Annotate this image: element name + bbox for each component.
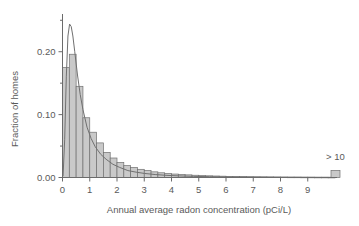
x-axis: 0123456789	[60, 178, 337, 195]
x-tick-label: 8	[278, 184, 283, 195]
x-tick-label: 7	[251, 184, 256, 195]
x-tick-label: 1	[87, 184, 92, 195]
histogram-bar	[117, 162, 124, 177]
x-axis-tick-labels: 0123456789	[60, 184, 311, 195]
histogram-bar	[90, 132, 97, 177]
overflow-bar-group	[331, 171, 340, 178]
y-tick-label: 0.10	[37, 109, 56, 120]
histogram-bar	[110, 158, 117, 177]
histogram-bar	[124, 166, 131, 178]
x-tick-label: 2	[114, 184, 119, 195]
y-axis-title: Fraction of homes	[9, 71, 20, 147]
x-axis-title: Annual average radon concentration (pCi/…	[107, 204, 291, 215]
x-axis-ticks	[63, 178, 308, 182]
y-axis: 0.000.100.20	[37, 14, 63, 183]
x-tick-label: 6	[223, 184, 228, 195]
x-tick-label: 9	[305, 184, 310, 195]
y-tick-label: 0.20	[37, 46, 56, 57]
y-axis-ticks	[59, 20, 63, 177]
y-tick-label: 0.00	[37, 172, 56, 183]
histogram-bar	[76, 86, 83, 177]
radon-histogram-figure: 0.000.100.20 0123456789 Annual average r…	[0, 0, 359, 226]
histogram-bar	[83, 118, 90, 178]
x-tick-label: 5	[196, 184, 201, 195]
histogram-bar	[69, 54, 76, 177]
plot-bars	[63, 54, 336, 178]
x-tick-label: 0	[60, 184, 65, 195]
histogram-bar	[97, 143, 104, 178]
y-axis-tick-labels: 0.000.100.20	[37, 46, 56, 183]
x-tick-label: 4	[169, 184, 174, 195]
overflow-bin-label: > 10	[326, 151, 345, 162]
chart-canvas: 0.000.100.20 0123456789 Annual average r…	[0, 0, 359, 226]
histogram-bar	[103, 152, 110, 177]
x-tick-label: 3	[142, 184, 147, 195]
overflow-bar	[331, 171, 340, 178]
